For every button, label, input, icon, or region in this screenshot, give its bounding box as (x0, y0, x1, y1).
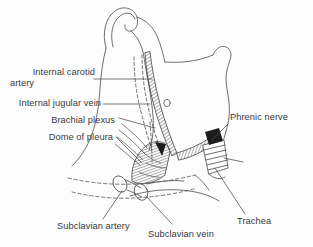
leader-subclavian-artery (103, 191, 122, 219)
trachea-tube (203, 140, 228, 179)
leader-subclavian-vein (146, 196, 172, 224)
label-brachial-plexus: Brachial plexus (20, 115, 115, 126)
label-dome-of-pleura: Dome of pleura (20, 132, 113, 143)
label-internal-carotid-artery-line1: Internal carotid (33, 67, 95, 77)
label-internal-jugular-vein: Internal jugular vein (4, 98, 101, 109)
label-trachea: Trachea (237, 216, 271, 227)
label-subclavian-artery: Subclavian artery (57, 221, 130, 232)
label-internal-carotid-artery-line2: artery (10, 78, 95, 89)
label-phrenic-nerve: Phrenic nerve (230, 112, 288, 123)
label-internal-carotid-artery: Internal carotid artery (10, 67, 95, 88)
leader-dome-of-pleura (116, 137, 142, 163)
leader-brachial-plexus (119, 118, 155, 128)
anatomy-figure: Internal carotid artery Internal jugular… (0, 0, 313, 247)
carotid-nodule (164, 99, 170, 106)
mastoid-hook-outline (104, 8, 137, 48)
leader-trachea (215, 168, 245, 214)
sternal-notch-outline (195, 175, 209, 190)
label-subclavian-vein: Subclavian vein (148, 229, 214, 240)
